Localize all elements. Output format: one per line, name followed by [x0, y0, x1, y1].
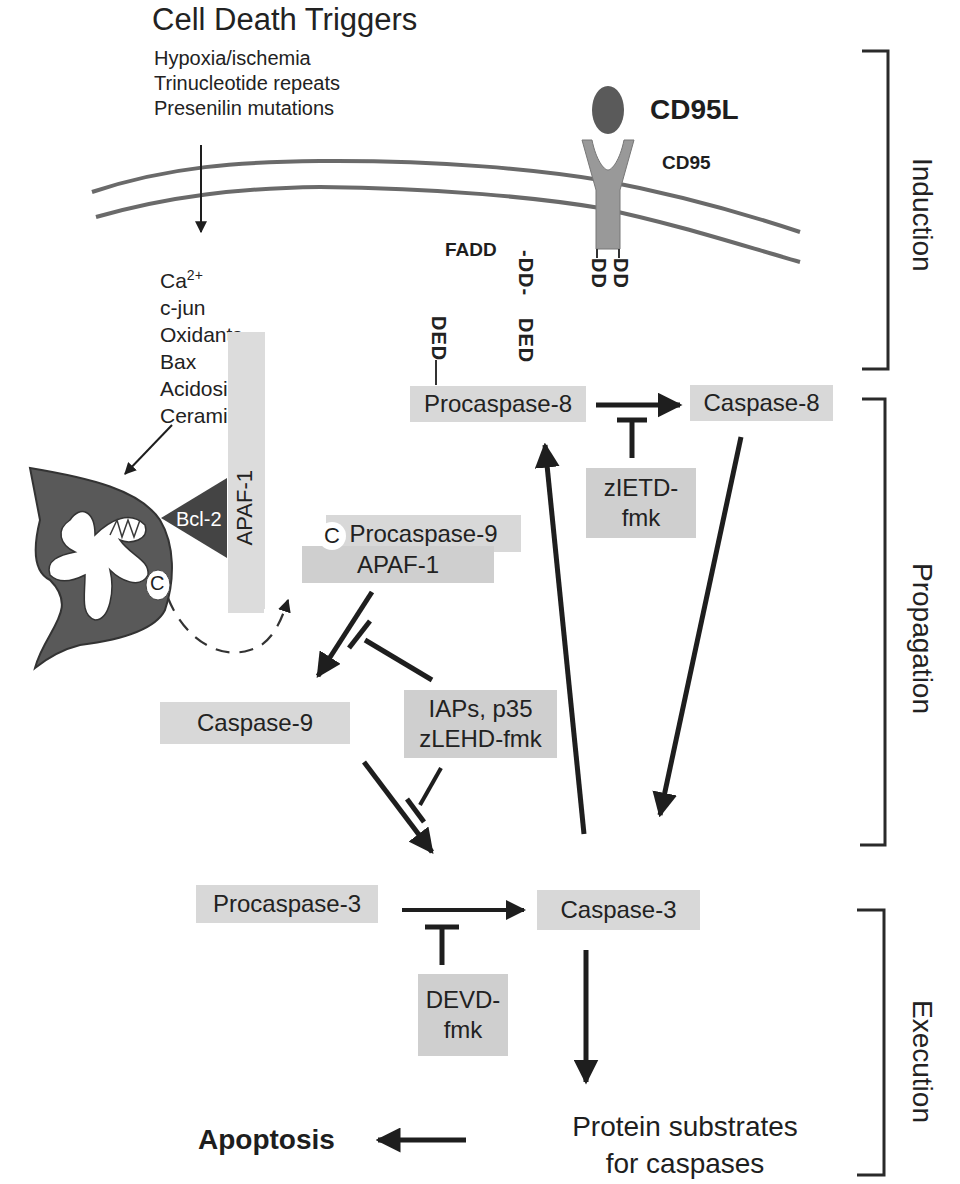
cd95-receptor-icon [582, 140, 634, 249]
iaps-inhibition-2 [407, 768, 441, 822]
apaf1-vertical-label: APAF-1 [232, 470, 258, 545]
cd95l-ligand-icon [592, 86, 624, 134]
triggers-title: Cell Death Triggers [152, 2, 417, 38]
node-caspase-3[interactable]: Caspase-3 [537, 890, 700, 930]
cytochrome-c-label: C [150, 572, 164, 595]
induction-bracket [862, 51, 888, 369]
trigger-item: Presenilin mutations [154, 96, 340, 121]
node-iaps-inhibitors[interactable]: IAPs, p35 zLEHD-fmk [404, 690, 557, 758]
procaspase3-activation-arrow [402, 910, 524, 965]
node-apaf1-complex[interactable]: APAF-1 [302, 546, 494, 583]
stage-propagation-label: Propagation [906, 563, 938, 714]
bcl2-label: Bcl-2 [176, 508, 222, 531]
trigger-item: Trinucleotide repeats [154, 71, 340, 96]
mediator-item: c-jun [160, 294, 251, 321]
mediator-item: Ca2+ [160, 262, 251, 294]
mediator-to-mito-arrow [125, 425, 172, 474]
execution-bracket [857, 910, 884, 1175]
procaspase8-activation-arrow [596, 405, 680, 458]
cd95l-label: CD95L [650, 94, 739, 126]
stage-brackets [857, 51, 888, 1175]
cd95-receptor-graphic [582, 86, 634, 258]
node-protein-substrates[interactable]: Protein substrates for caspases [545, 1108, 825, 1182]
stage-execution-label: Execution [906, 1000, 938, 1123]
iaps-inhibition-1 [349, 621, 432, 680]
fadd-ded-domain: DED [514, 318, 537, 363]
caspase9-to-caspase3-arrow [364, 762, 432, 852]
node-devd-fmk[interactable]: DEVD- fmk [418, 974, 508, 1056]
apaf1-to-caspase9-arrow [318, 592, 372, 676]
propagation-bracket [860, 399, 885, 845]
cd95-dd-left: DD [587, 258, 610, 289]
node-caspase-9[interactable]: Caspase-9 [160, 702, 350, 744]
node-apoptosis[interactable]: Apoptosis [198, 1124, 335, 1156]
cd95-dd-right: DD [609, 258, 632, 289]
node-caspase-8[interactable]: Caspase-8 [690, 385, 833, 421]
cd95-label: CD95 [662, 152, 711, 174]
fadd-dd-domain: -DD- [514, 250, 537, 296]
complex-cytochrome-c: C [318, 522, 346, 550]
procaspase8-ded-domain: DED [427, 316, 450, 361]
fadd-label: FADD [445, 239, 497, 261]
triggers-list: Hypoxia/ischemia Trinucleotide repeats P… [154, 46, 340, 121]
node-procaspase-8[interactable]: Procaspase-8 [410, 386, 586, 422]
node-zietd-fmk[interactable]: zIETD- fmk [586, 468, 696, 538]
trigger-item: Hypoxia/ischemia [154, 46, 340, 71]
node-procaspase-3[interactable]: Procaspase-3 [196, 885, 378, 923]
caspase3-to-procaspase8-arrow [545, 445, 584, 834]
stage-induction-label: Induction [906, 158, 938, 272]
